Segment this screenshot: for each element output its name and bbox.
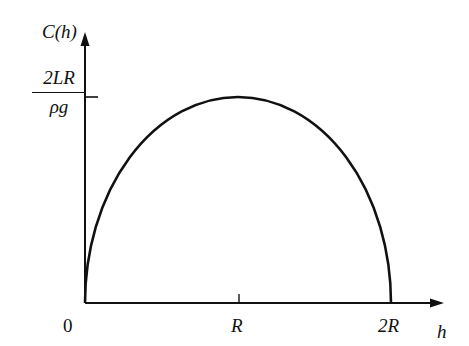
plot-canvas	[0, 0, 469, 346]
x-tick-2R-label: 2R	[378, 316, 399, 335]
y-max-label: 2LR ρg	[32, 67, 86, 118]
origin-label: 0	[63, 316, 73, 335]
x-axis-label: h	[437, 322, 447, 341]
y-axis-arrow-icon	[81, 32, 90, 46]
x-tick-R-label: R	[231, 316, 243, 335]
curve-C-of-h	[85, 97, 391, 303]
x-axis-arrow-icon	[430, 299, 444, 308]
y-axis-label: C(h)	[42, 22, 77, 41]
y-max-denominator: ρg	[32, 93, 86, 118]
y-max-numerator: 2LR	[32, 67, 86, 93]
